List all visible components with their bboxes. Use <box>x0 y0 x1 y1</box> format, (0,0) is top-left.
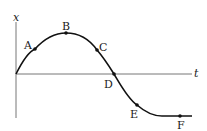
horizontal-axis-label: t <box>194 67 199 80</box>
point-d-label: D <box>104 78 113 91</box>
point-a-marker <box>33 47 37 51</box>
point-f-label: F <box>177 119 185 131</box>
position-time-graph: x t A B C D E F <box>0 0 207 131</box>
point-e-label: E <box>130 108 138 121</box>
graph-svg: x t A B C D E F <box>0 0 207 131</box>
point-e-marker <box>135 103 139 107</box>
point-a-label: A <box>23 39 33 52</box>
point-d-marker <box>112 72 116 76</box>
point-f-marker <box>178 114 182 118</box>
point-b-label: B <box>62 20 70 33</box>
vertical-axis-label: x <box>13 11 20 24</box>
point-c-label: C <box>99 41 107 54</box>
